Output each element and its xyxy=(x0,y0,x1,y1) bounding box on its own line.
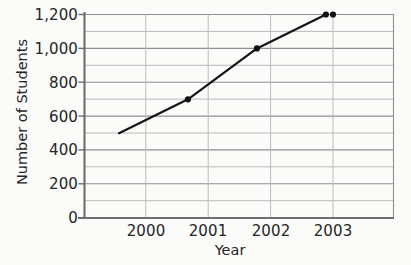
x-axis-title: Year xyxy=(150,242,310,258)
data-point-2001 xyxy=(254,45,260,51)
data-line-students xyxy=(119,15,326,134)
data-point-markers xyxy=(185,11,336,102)
ytick-label-1200: 1,200 xyxy=(6,6,78,24)
xtick-label-2003: 2003 xyxy=(293,222,373,240)
ytick-label-0: 0 xyxy=(6,209,78,227)
data-point-2000 xyxy=(185,96,191,102)
data-point-2003 xyxy=(330,11,336,17)
data-point-2002 xyxy=(323,11,329,17)
y-axis-title: Number of Students xyxy=(14,27,30,197)
line-chart-figure: 1,200 1,000 800 600 400 200 0 2000 2001 … xyxy=(0,0,411,265)
